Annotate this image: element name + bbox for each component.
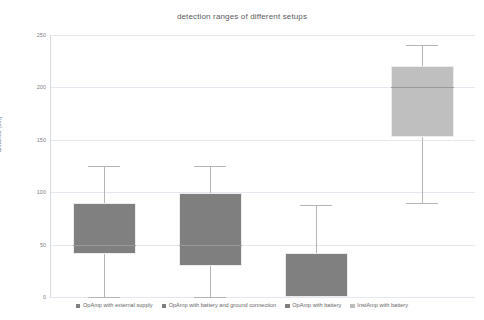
y-axis-tick-labels: 050100150200250 [0, 35, 46, 298]
box-plot-series[interactable] [179, 35, 242, 297]
y-axis-tick-label: 200 [2, 84, 46, 90]
y-axis-tick-label: 0 [2, 294, 46, 300]
lower-whisker-stem [210, 266, 211, 297]
y-axis-tick-label: 50 [2, 242, 46, 248]
legend-item[interactable]: OpAmp with battery and ground connection [162, 303, 277, 309]
box-plot-series[interactable] [73, 35, 136, 297]
upper-whisker-cap [194, 166, 226, 167]
box-plot-chart: detection ranges of different setups 050… [0, 0, 484, 320]
legend-item[interactable]: OpAmp with external supply [76, 303, 153, 309]
chart-legend: OpAmp with external supplyOpAmp with bat… [0, 303, 484, 309]
y-axis-tick-label: 100 [2, 189, 46, 195]
median-line [73, 245, 136, 246]
lower-whisker-stem [104, 254, 105, 297]
y-axis-tick-label: 250 [2, 32, 46, 38]
lower-whisker-stem [422, 137, 423, 203]
upper-whisker-stem [104, 166, 105, 203]
box-rect[interactable] [179, 193, 242, 265]
upper-whisker-stem [316, 205, 317, 253]
lower-whisker-cap [88, 297, 120, 298]
legend-item-label: OpAmp with battery and ground connection [169, 303, 277, 309]
upper-whisker-cap [406, 45, 438, 46]
legend-swatch-icon [76, 304, 81, 309]
chart-title: detection ranges of different setups [0, 12, 484, 21]
y-axis-tick-label: 150 [2, 137, 46, 143]
box-rect[interactable] [391, 66, 454, 136]
lower-whisker-cap [406, 203, 438, 204]
legend-swatch-icon [350, 304, 355, 309]
legend-item-label: InstAmp with battery [357, 303, 408, 309]
y-axis-title: distance [cm] [0, 117, 2, 152]
legend-item[interactable]: OpAmp with battery [285, 303, 341, 309]
upper-whisker-cap [88, 166, 120, 167]
plot-area [51, 35, 475, 297]
legend-swatch-icon [162, 304, 167, 309]
box-plot-series[interactable] [285, 35, 348, 297]
upper-whisker-stem [210, 166, 211, 193]
box-rect[interactable] [73, 203, 136, 254]
lower-whisker-cap [194, 297, 226, 298]
legend-item-label: OpAmp with external supply [83, 303, 153, 309]
legend-item-label: OpAmp with battery [292, 303, 341, 309]
legend-item[interactable]: InstAmp with battery [350, 303, 408, 309]
box-plot-series[interactable] [391, 35, 454, 297]
upper-whisker-stem [422, 45, 423, 66]
upper-whisker-cap [300, 205, 332, 206]
legend-swatch-icon [285, 304, 290, 309]
median-line [179, 245, 242, 246]
median-line [391, 87, 454, 88]
box-rect[interactable] [285, 253, 348, 297]
